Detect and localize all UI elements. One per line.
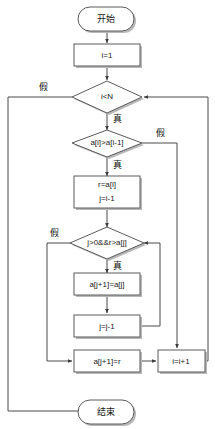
branch-label-compare-true: 真 bbox=[113, 159, 122, 170]
node-cond-compare-label: a[i]>a[i-1] bbox=[90, 138, 123, 147]
node-place: a[j+1]=r bbox=[74, 350, 142, 374]
node-save-key: r=a[i] j=i-1 bbox=[74, 176, 142, 210]
node-dec-j-label: j=j-1 bbox=[98, 322, 115, 331]
node-cond-outer-label: i<N bbox=[101, 92, 113, 101]
flowchart-svg: 开始 i=1 i<N a[i]>a[i-1] r=a[i] j=i-1 bbox=[0, 0, 215, 429]
branch-label-outer-false: 假 bbox=[39, 82, 48, 92]
flowchart-canvas: 开始 i=1 i<N a[i]>a[i-1] r=a[i] j=i-1 bbox=[0, 0, 215, 429]
branch-label-compare-false: 假 bbox=[156, 128, 165, 138]
node-save-key-label-line1: r=a[i] bbox=[98, 180, 116, 189]
edge-cond-inner-false-to-place bbox=[47, 243, 72, 361]
edge-inc-loop-back bbox=[144, 97, 208, 361]
node-cond-compare: a[i]>a[i-1] bbox=[72, 130, 144, 159]
node-cond-inner-label: j>0&&r>a[j] bbox=[86, 238, 127, 247]
branch-label-outer-true: 真 bbox=[113, 113, 122, 124]
node-cond-outer: i<N bbox=[72, 81, 144, 115]
branch-label-inner-false: 假 bbox=[50, 228, 59, 238]
node-dec-j: j=j-1 bbox=[74, 315, 142, 339]
node-init-label: i=1 bbox=[102, 51, 113, 60]
node-shift: a[j+1]=a[j] bbox=[74, 273, 142, 297]
node-save-key-label-line2: j=i-1 bbox=[98, 194, 115, 203]
node-init: i=1 bbox=[74, 44, 142, 68]
node-cond-inner: j>0&&r>a[j] bbox=[70, 227, 146, 261]
node-inc-i-label: i=i+1 bbox=[172, 357, 190, 366]
node-start: 开始 bbox=[78, 7, 136, 33]
node-place-label: a[j+1]=r bbox=[93, 357, 120, 366]
node-inc-i: i=i+1 bbox=[158, 350, 207, 374]
node-end-label: 结束 bbox=[97, 406, 115, 417]
branch-label-inner-true: 真 bbox=[113, 260, 122, 271]
edge-dec-j-loop-back bbox=[140, 243, 160, 326]
node-end: 结束 bbox=[78, 400, 136, 426]
node-start-label: 开始 bbox=[97, 13, 115, 24]
node-shift-label: a[j+1]=a[j] bbox=[89, 280, 124, 289]
